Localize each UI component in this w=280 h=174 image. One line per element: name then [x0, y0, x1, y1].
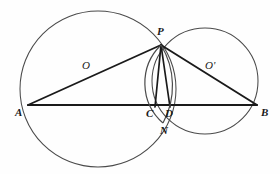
- point-label-d: D: [165, 108, 173, 119]
- segment-pc: [155, 45, 161, 107]
- point-label-p: P: [157, 26, 164, 37]
- point-label-a: A: [15, 107, 22, 118]
- point-label-c: C: [146, 108, 153, 119]
- circle-center-label-o-prime: O': [205, 60, 215, 71]
- geometry-figure: A B C D N P O O': [0, 0, 280, 174]
- segment-ap: [28, 45, 161, 105]
- point-label-b: B: [261, 107, 268, 118]
- circle-center-label-o: O: [82, 60, 90, 71]
- point-label-n: N: [160, 125, 168, 136]
- geometry-canvas: [0, 0, 280, 174]
